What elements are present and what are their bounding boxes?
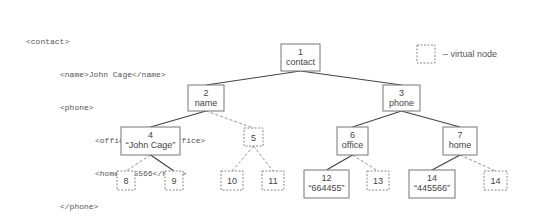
tree-edges: [126, 71, 496, 171]
node-id-label: 6: [350, 130, 355, 140]
node-id-label: 2: [203, 88, 208, 98]
tree-edge-6-12: [327, 155, 353, 170]
virtual-tree-node: 10: [221, 171, 243, 190]
node-name-label: phone: [389, 98, 414, 108]
node-id-label: 1: [298, 47, 303, 57]
tree-edge-4-8: [126, 155, 151, 171]
tree-edge-6-13: [353, 155, 379, 171]
virtual-tree-node: 13: [367, 171, 389, 190]
tree-edge-2-4: [151, 111, 207, 127]
tree-node: 1contact: [281, 44, 320, 71]
legend-label: – virtual node: [443, 49, 497, 59]
node-name-label: home: [449, 140, 472, 150]
tree-edge-4-9: [151, 155, 175, 171]
xml-tree-diagram: 1contact2name3phone4“John Cage”56office7…: [0, 0, 534, 219]
tree-nodes: 1contact2name3phone4“John Cage”56office7…: [117, 44, 507, 198]
tree-edge-7-14: [432, 155, 460, 170]
node-id-label: 5: [251, 133, 256, 143]
tree-node: 7home: [443, 127, 477, 155]
node-id-label: 13: [373, 176, 383, 186]
tree-edge-7-14v: [460, 155, 496, 171]
tree-edge-1-3: [301, 71, 402, 85]
node-id-label: 14: [490, 176, 500, 186]
legend: – virtual node: [417, 45, 497, 63]
tree-node: 3phone: [383, 85, 420, 111]
tree-node: 14“445566”: [409, 170, 455, 198]
tree-edge-2-5: [206, 111, 254, 128]
tree-edge-5-11: [254, 146, 274, 171]
tree-edge-5-10: [232, 146, 254, 171]
tree-edge-3-7: [402, 111, 461, 127]
virtual-tree-node: 5: [244, 128, 263, 146]
node-id-label: 12: [321, 173, 331, 183]
node-name-label: “445566”: [414, 183, 450, 193]
tree-node: 4“John Cage”: [121, 127, 180, 155]
tree-node: 12“664455”: [304, 170, 349, 198]
node-id-label: 4: [148, 130, 153, 140]
node-name-label: contact: [286, 57, 316, 67]
tree-node: 2name: [188, 85, 224, 111]
tree-node: 6office: [337, 127, 368, 155]
node-id-label: 11: [268, 176, 277, 186]
node-name-label: name: [195, 98, 218, 108]
tree-edge-3-6: [353, 111, 402, 127]
virtual-tree-node: 14: [484, 171, 507, 190]
node-id-label: 9: [171, 176, 176, 186]
node-id-label: 14: [427, 173, 437, 183]
node-id-label: 3: [399, 88, 404, 98]
node-name-label: office: [342, 140, 363, 150]
node-id-label: 10: [227, 176, 237, 186]
node-name-label: “664455”: [308, 183, 344, 193]
virtual-tree-node: 11: [262, 171, 284, 190]
virtual-tree-node: 9: [165, 171, 183, 190]
legend-virtual-node-symbol: [417, 45, 435, 63]
node-id-label: 8: [123, 176, 128, 186]
tree-edge-1-2: [206, 71, 301, 85]
node-name-label: “John Cage”: [126, 140, 176, 150]
node-id-label: 7: [457, 130, 462, 140]
virtual-tree-node: 8: [117, 171, 135, 190]
